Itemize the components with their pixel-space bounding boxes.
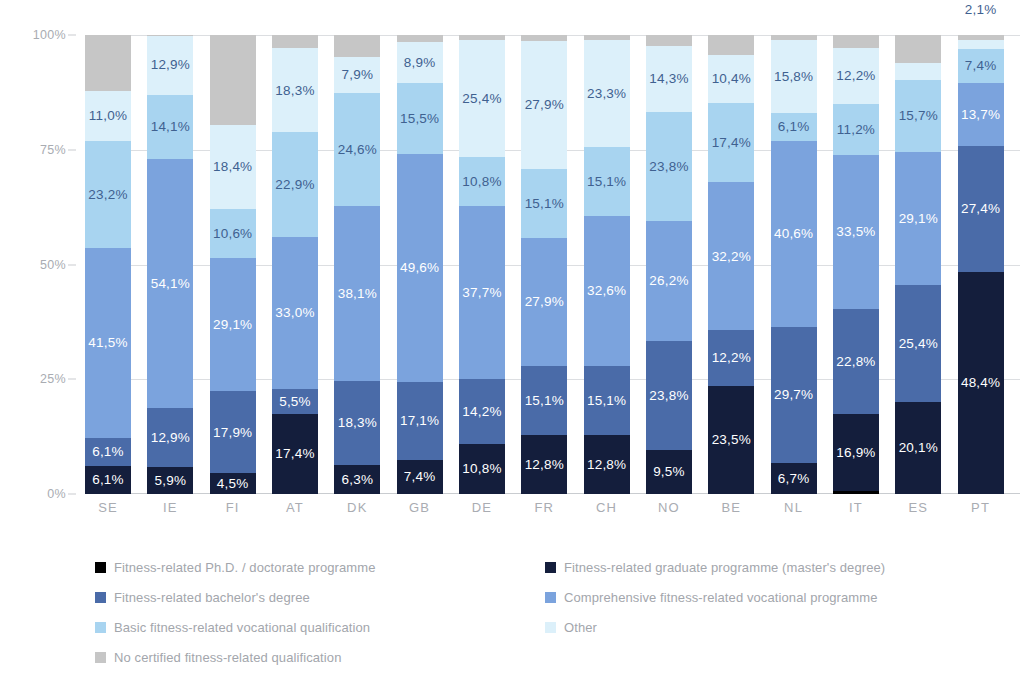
bar-segment[interactable]: 29,1% xyxy=(210,258,256,392)
bar-segment[interactable]: 23,8% xyxy=(646,112,692,221)
bar-segment[interactable]: 15,8% xyxy=(771,40,817,113)
bar-segment[interactable]: 15,1% xyxy=(521,169,567,238)
bar-column[interactable]: 16,9%22,8%33,5%11,2%12,2% xyxy=(833,35,879,494)
bar-segment[interactable]: 17,4% xyxy=(708,103,754,183)
bar-segment[interactable]: 7,4% xyxy=(958,49,1004,83)
bar-segment[interactable]: 18,3% xyxy=(272,48,318,132)
bar-segment[interactable] xyxy=(584,35,630,40)
legend-item[interactable]: Fitness-related Ph.D. / doctorate progra… xyxy=(95,560,545,575)
bar-segment[interactable] xyxy=(210,35,256,125)
bar-segment[interactable] xyxy=(646,35,692,46)
bar-segment[interactable] xyxy=(833,35,879,48)
bar-segment[interactable]: 10,8% xyxy=(459,444,505,494)
bar-segment[interactable]: 14,3% xyxy=(646,46,692,112)
bar-segment[interactable]: 15,7% xyxy=(895,80,941,152)
bar-segment[interactable]: 54,1% xyxy=(147,159,193,407)
legend-item[interactable]: Comprehensive fitness-related vocational… xyxy=(545,590,995,605)
bar-column[interactable]: 6,7%29,7%40,6%6,1%15,8% xyxy=(771,35,817,494)
bar-segment[interactable]: 24,6% xyxy=(334,93,380,206)
bar-segment[interactable]: 12,9% xyxy=(147,35,193,94)
bar-segment[interactable]: 22,9% xyxy=(272,132,318,237)
bar-segment[interactable]: 4,5% xyxy=(210,473,256,494)
bar-segment[interactable]: 10,6% xyxy=(210,209,256,258)
bar-segment[interactable]: 9,5% xyxy=(646,450,692,494)
bar-segment[interactable]: 15,1% xyxy=(521,366,567,435)
bar-column[interactable]: 6,3%18,3%38,1%24,6%7,9% xyxy=(334,35,380,494)
bar-column[interactable]: 6,1%6,1%41,5%23,2%11,0% xyxy=(85,35,131,494)
bar-segment[interactable]: 25,4% xyxy=(459,40,505,157)
bar-segment[interactable]: 3,7% xyxy=(895,63,941,80)
bar-segment[interactable] xyxy=(459,35,505,40)
bar-segment[interactable]: 29,1% xyxy=(895,152,941,286)
legend-item[interactable]: No certified fitness-related qualificati… xyxy=(95,650,545,665)
bar-segment[interactable] xyxy=(958,35,1004,40)
bar-segment[interactable]: 29,7% xyxy=(771,327,817,463)
legend-item[interactable]: Fitness-related graduate programme (mast… xyxy=(545,560,995,575)
bar-column[interactable]: 20,1%25,4%29,1%15,7%3,7% xyxy=(895,35,941,494)
bar-segment[interactable]: 12,2% xyxy=(833,48,879,104)
bar-segment[interactable] xyxy=(397,35,443,42)
bar-segment[interactable]: 27,9% xyxy=(521,41,567,169)
bar-segment[interactable]: 6,3% xyxy=(334,465,380,494)
bar-segment[interactable]: 22,8% xyxy=(833,309,879,414)
bar-segment[interactable]: 17,4% xyxy=(272,414,318,494)
bar-segment[interactable]: 6,7% xyxy=(771,463,817,494)
bar-segment[interactable]: 20,1% xyxy=(895,402,941,494)
bar-segment[interactable] xyxy=(771,35,817,40)
bar-segment[interactable]: 23,2% xyxy=(85,141,131,247)
bar-segment[interactable] xyxy=(272,35,318,48)
bar-segment[interactable]: 6,1% xyxy=(85,438,131,466)
bar-segment[interactable]: 27,9% xyxy=(521,238,567,366)
bar-segment[interactable]: 14,1% xyxy=(147,95,193,160)
bar-segment[interactable]: 15,5% xyxy=(397,83,443,154)
bar-column[interactable]: 5,9%12,9%54,1%14,1%12,9% xyxy=(147,35,193,494)
bar-segment[interactable]: 23,8% xyxy=(646,341,692,450)
bar-segment[interactable]: 11,0% xyxy=(85,91,131,141)
bar-column[interactable]: 10,8%14,2%37,7%10,8%25,4% xyxy=(459,35,505,494)
bar-segment[interactable]: 2,1% xyxy=(958,40,1004,50)
bar-segment[interactable] xyxy=(85,35,131,91)
bar-segment[interactable]: 33,5% xyxy=(833,155,879,309)
bar-segment[interactable]: 15,1% xyxy=(584,366,630,435)
bar-segment[interactable]: 32,6% xyxy=(584,216,630,366)
bar-segment[interactable]: 8,9% xyxy=(397,42,443,83)
legend-item[interactable]: Basic fitness-related vocational qualifi… xyxy=(95,620,545,635)
bar-segment[interactable]: 41,5% xyxy=(85,248,131,438)
bar-segment[interactable]: 7,4% xyxy=(397,460,443,494)
bar-column[interactable]: 12,8%15,1%27,9%15,1%27,9% xyxy=(521,35,567,494)
bar-segment[interactable]: 37,7% xyxy=(459,206,505,379)
bar-segment[interactable]: 15,1% xyxy=(584,147,630,216)
bar-segment[interactable]: 32,2% xyxy=(708,182,754,330)
bar-segment[interactable]: 40,6% xyxy=(771,141,817,327)
bar-segment[interactable] xyxy=(895,35,941,63)
bar-segment[interactable]: 14,2% xyxy=(459,379,505,444)
bar-segment[interactable]: 17,1% xyxy=(397,382,443,460)
bar-segment[interactable]: 13,7% xyxy=(958,83,1004,146)
bar-segment[interactable] xyxy=(708,35,754,55)
bar-segment[interactable]: 49,6% xyxy=(397,154,443,382)
bar-segment[interactable]: 12,8% xyxy=(584,435,630,494)
bar-column[interactable]: 23,5%12,2%32,2%17,4%10,4% xyxy=(708,35,754,494)
bar-segment[interactable]: 5,5% xyxy=(272,389,318,414)
bar-segment[interactable]: 7,9% xyxy=(334,57,380,93)
bar-segment[interactable]: 6,1% xyxy=(85,466,131,494)
bar-segment[interactable]: 16,9% xyxy=(833,414,879,492)
bar-segment[interactable]: 11,2% xyxy=(833,104,879,155)
bar-column[interactable]: 7,4%17,1%49,6%15,5%8,9% xyxy=(397,35,443,494)
bar-segment[interactable]: 23,5% xyxy=(708,386,754,494)
bar-segment[interactable]: 38,1% xyxy=(334,206,380,381)
bar-segment[interactable] xyxy=(334,35,380,57)
bar-segment[interactable] xyxy=(521,35,567,41)
bar-column[interactable]: 9,5%23,8%26,2%23,8%14,3% xyxy=(646,35,692,494)
bar-segment[interactable]: 26,2% xyxy=(646,221,692,341)
bar-column[interactable]: 4,5%17,9%29,1%10,6%18,4% xyxy=(210,35,256,494)
bar-segment[interactable]: 5,9% xyxy=(147,467,193,494)
legend-item[interactable]: Other xyxy=(545,620,995,635)
bar-segment[interactable]: 12,8% xyxy=(521,435,567,494)
bar-segment[interactable]: 18,3% xyxy=(334,381,380,465)
bar-segment[interactable]: 10,8% xyxy=(459,157,505,207)
bar-column[interactable]: 17,4%5,5%33,0%22,9%18,3% xyxy=(272,35,318,494)
bar-segment[interactable] xyxy=(833,491,879,494)
bar-segment[interactable]: 27,4% xyxy=(958,146,1004,272)
bar-segment[interactable]: 18,4% xyxy=(210,125,256,209)
